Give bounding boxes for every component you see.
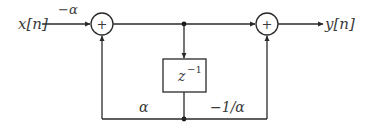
delay-base: z — [177, 68, 186, 84]
input-gain-label: −α — [58, 2, 78, 17]
adder-1: + — [91, 13, 113, 35]
adder-2: + — [256, 13, 278, 35]
output-label: y[n] — [324, 15, 355, 33]
feedforward-gain-label: −1/α — [210, 99, 245, 115]
feedback-gain-label: α — [139, 99, 149, 115]
block-diagram: x[n] −α + z −1 α −1/α + y[n] — [0, 0, 366, 125]
delay-block: z −1 — [163, 59, 206, 92]
adder-1-symbol: + — [97, 17, 108, 32]
adder-2-symbol: + — [262, 17, 273, 32]
delay-exponent: −1 — [187, 64, 202, 75]
